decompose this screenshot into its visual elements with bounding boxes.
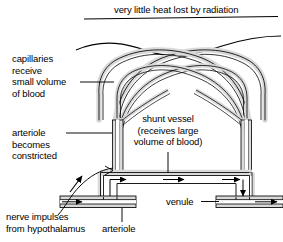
label-venule: venule — [166, 196, 193, 208]
right-vertical-vessel — [241, 120, 252, 174]
caption-underline — [84, 17, 278, 20]
label-shunt-vessel: shunt vessel (receives large volume of b… — [113, 113, 223, 148]
label-arteriole-constricted: arteriole becomes constricted — [12, 127, 57, 162]
label-arteriole-bottom: arteriole — [102, 223, 135, 235]
shunt-vessel — [101, 173, 253, 198]
label-nerve-impulses: nerve impulses from hypothalamus — [6, 211, 85, 234]
caption-heat-loss: very little heat lost by radiation — [114, 4, 238, 16]
diagram-canvas: very little heat lost by radiation capil… — [0, 0, 283, 242]
label-capillaries: capillaries receive small volume of bloo… — [12, 53, 66, 99]
